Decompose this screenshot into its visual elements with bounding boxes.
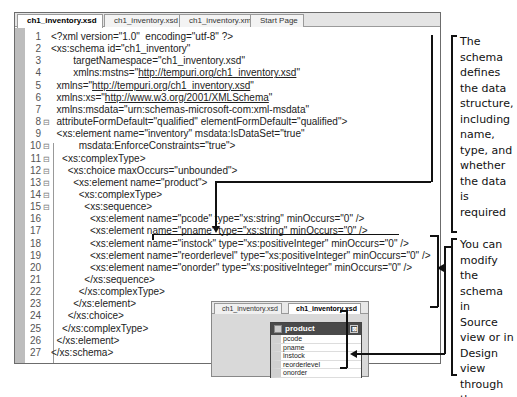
- line-number: 11: [25, 153, 41, 165]
- product-entity[interactable]: product ⊠ pcode pname instock reorderlev…: [270, 322, 362, 378]
- entity-title: product: [285, 324, 315, 333]
- line-number: 13: [25, 177, 41, 189]
- entity-field[interactable]: reorderlevel: [271, 361, 361, 370]
- editor-tab-bar: ch1_inventory.xsd ch1_inventory.xsd ch1_…: [15, 13, 440, 27]
- callout-modify-schema: You canmodifytheschema inSourceview or i…: [460, 237, 516, 397]
- code-line[interactable]: 7 xmlns:msdata="urn:schemas-microsoft-co…: [25, 104, 309, 116]
- code-text: <xs:complexType>: [51, 189, 162, 201]
- code-line[interactable]: 18 <xs:element name="instock" type="xs:p…: [25, 238, 409, 250]
- callout-text-line: schema in: [460, 284, 516, 315]
- code-line[interactable]: 17 <xs:element name="pname" type="xs:str…: [25, 225, 368, 237]
- code-line[interactable]: 15⊟ <xs:sequence>: [25, 201, 152, 213]
- code-line[interactable]: 14⊟ <xs:complexType>: [25, 189, 162, 201]
- line-number: 4: [25, 67, 41, 79]
- entity-field[interactable]: instock: [271, 352, 361, 361]
- code-line[interactable]: 27</xs:schema>: [25, 347, 113, 359]
- xml-editor-window: ch1_inventory.xsd ch1_inventory.xsd ch1_…: [14, 12, 441, 364]
- line-number: 24: [25, 310, 41, 322]
- callout-text-line: required: [460, 205, 516, 221]
- callout-connector: [444, 246, 446, 354]
- callout-bracket: [451, 35, 457, 37]
- callout-connector: [356, 353, 445, 355]
- source-bracket: [430, 235, 438, 237]
- namespace-link[interactable]: http://www.w3.org/2001/XMLSchema: [105, 92, 269, 103]
- code-line[interactable]: 8⊟ attributeFormDefault="qualified" elem…: [25, 116, 347, 128]
- code-text: </xs:complexType>: [51, 286, 165, 298]
- line-number: 8: [25, 116, 41, 128]
- code-text: attributeFormDefault="qualified" element…: [51, 116, 347, 128]
- design-tab-design[interactable]: ch1_inventory.xsd: [288, 303, 361, 314]
- code-line[interactable]: 4 xmlns:mstns="http://tempuri.org/ch1_in…: [25, 67, 300, 79]
- entity-field[interactable]: onorder: [271, 369, 361, 378]
- callout-bracket: [451, 374, 457, 376]
- code-line[interactable]: 21 </xs:sequence>: [25, 274, 155, 286]
- code-line[interactable]: 24 </xs:choice>: [25, 310, 124, 322]
- tab-ch1-inventory-xsd-design[interactable]: ch1_inventory.xsd: [104, 14, 184, 27]
- line-number: 20: [25, 262, 41, 274]
- line-number: 27: [25, 347, 41, 359]
- code-line[interactable]: 12⊟ <xs:choice maxOccurs="unbounded">: [25, 165, 237, 177]
- arrow-left-icon: [350, 350, 357, 358]
- code-line[interactable]: 10⊟ msdata:EnforceConstraints="true">: [25, 140, 235, 152]
- source-bracket: [430, 306, 438, 308]
- code-line[interactable]: 23 </xs:element>: [25, 298, 136, 310]
- code-line[interactable]: 5 xmlns="http://tempuri.org/ch1_inventor…: [25, 80, 254, 92]
- namespace-link[interactable]: http://tempuri.org/ch1_inventory.xsd: [138, 67, 296, 78]
- code-line[interactable]: 22 </xs:complexType>: [25, 286, 165, 298]
- line-number: 16: [25, 213, 41, 225]
- design-tab-bar: ch1_inventory.xsd ch1_inventory.xsd: [212, 302, 368, 314]
- callout-schema-definition: Theschemadefinesthe datastructure,includ…: [460, 34, 516, 220]
- callout-connector: [215, 181, 431, 183]
- code-line[interactable]: 2<xs:schema id="ch1_inventory": [25, 43, 190, 55]
- line-number: 6: [25, 92, 41, 104]
- design-bracket: [346, 310, 348, 368]
- entity-field[interactable]: pcode: [271, 335, 361, 344]
- code-line[interactable]: 3 targetNamespace="ch1_inventory.xsd": [25, 55, 245, 67]
- code-line[interactable]: 13⊟ <xs:element name="product">: [25, 177, 207, 189]
- code-text: <xs:schema id="ch1_inventory": [51, 43, 190, 55]
- code-text: <xs:choice maxOccurs="unbounded">: [51, 165, 237, 177]
- callout-text-line: Source: [460, 315, 516, 331]
- code-text: <xs:sequence>: [51, 201, 152, 213]
- code-line[interactable]: 6 xmlns:xs="http://www.w3.org/2001/XMLSc…: [25, 92, 272, 104]
- design-tab-source[interactable]: ch1_inventory.xsd: [214, 303, 282, 314]
- code-line[interactable]: 20 <xs:element name="onorder" type="xs:p…: [25, 262, 412, 274]
- callout-text-line: the data is: [460, 174, 516, 205]
- code-line[interactable]: 16 <xs:element name="pcode" type="xs:str…: [25, 213, 364, 225]
- collapse-icon[interactable]: ⊠: [350, 325, 358, 333]
- tab-start-page[interactable]: Start Page: [250, 14, 304, 27]
- code-line[interactable]: 11⊟ <xs:complexType>: [25, 153, 146, 165]
- code-line[interactable]: 19 <xs:element name="reorderlevel" type=…: [25, 250, 431, 262]
- arrow-left-icon: [437, 264, 444, 272]
- code-text: <?xml version="1.0" encoding="utf-8" ?>: [51, 31, 233, 43]
- code-text: xmlns:mstns="http://tempuri.org/ch1_inve…: [51, 67, 300, 79]
- callout-text-line: modify: [460, 253, 516, 269]
- callout-text-line: type, and: [460, 143, 516, 159]
- entity-header: product ⊠: [271, 323, 361, 335]
- line-number: 18: [25, 238, 41, 250]
- code-text: <xs:element name="pcode" type="xs:string…: [51, 213, 364, 225]
- entity-field[interactable]: pname: [271, 344, 361, 353]
- code-text: xmlns:xs=": [51, 92, 105, 103]
- code-line[interactable]: 25 </xs:complexType>: [25, 323, 148, 335]
- tab-ch1-inventory-xml[interactable]: ch1_inventory.xml: [179, 14, 259, 27]
- callout-bracket: [451, 35, 453, 232]
- code-line[interactable]: 9 <xs:element name="inventory" msdata:Is…: [25, 128, 305, 140]
- callout-text-line: defines: [460, 65, 516, 81]
- callout-text-line: whether: [460, 158, 516, 174]
- code-line[interactable]: 26 </xs:element>: [25, 335, 119, 347]
- callout-text-line: schema: [460, 50, 516, 66]
- namespace-link[interactable]: http://tempuri.org/ch1_inventory.xsd: [92, 80, 250, 91]
- line-number: 12: [25, 165, 41, 177]
- line-number: 5: [25, 80, 41, 92]
- code-text: <xs:element name="reorderlevel" type="xs…: [51, 250, 431, 262]
- callout-text-line: structure,: [460, 96, 516, 112]
- code-line[interactable]: 1<?xml version="1.0" encoding="utf-8" ?>: [25, 31, 233, 43]
- code-text: <xs:element name="onorder" type="xs:posi…: [51, 262, 412, 274]
- code-text: ": [269, 92, 273, 103]
- highlight-bracket: [152, 234, 399, 235]
- callout-text-line: the data: [460, 81, 516, 97]
- code-text: </xs:complexType>: [51, 323, 148, 335]
- tab-ch1-inventory-xsd-source[interactable]: ch1_inventory.xsd: [17, 14, 103, 28]
- line-number: 14: [25, 189, 41, 201]
